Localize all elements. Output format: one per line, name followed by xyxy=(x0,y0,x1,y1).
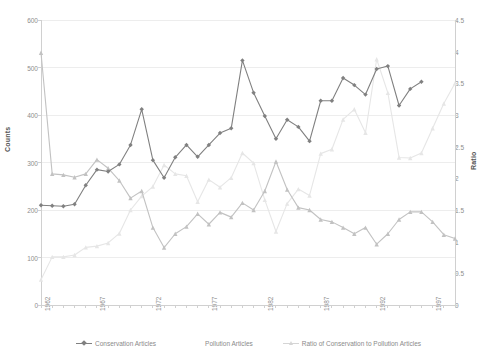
data-point-conservation-articles xyxy=(263,114,267,118)
data-point-conservation-articles xyxy=(39,203,43,207)
legend-marker-icon xyxy=(186,340,202,347)
data-point-pollution-articles xyxy=(263,189,267,193)
data-point-ratio-of-conservation-to-pollution-articles xyxy=(240,151,244,155)
data-point-pollution-articles xyxy=(195,212,199,216)
data-point-pollution-articles xyxy=(274,159,278,163)
data-point-conservation-articles xyxy=(330,99,334,103)
data-point-ratio-of-conservation-to-pollution-articles xyxy=(419,151,423,155)
data-point-ratio-of-conservation-to-pollution-articles xyxy=(229,176,233,180)
data-point-ratio-of-conservation-to-pollution-articles xyxy=(151,184,155,188)
data-point-pollution-articles xyxy=(240,201,244,205)
data-point-ratio-of-conservation-to-pollution-articles xyxy=(430,126,434,130)
data-point-ratio-of-conservation-to-pollution-articles xyxy=(352,107,356,111)
data-point-ratio-of-conservation-to-pollution-articles xyxy=(363,131,367,135)
legend-label: Conservation Articles xyxy=(95,340,156,347)
data-point-ratio-of-conservation-to-pollution-articles xyxy=(386,91,390,95)
data-point-conservation-articles xyxy=(319,99,323,103)
data-point-pollution-articles xyxy=(95,157,99,161)
data-point-ratio-of-conservation-to-pollution-articles xyxy=(117,231,121,235)
data-point-pollution-articles xyxy=(352,232,356,236)
data-point-pollution-articles xyxy=(285,187,289,191)
data-point-ratio-of-conservation-to-pollution-articles xyxy=(296,187,300,191)
data-point-ratio-of-conservation-to-pollution-articles xyxy=(319,151,323,155)
data-point-ratio-of-conservation-to-pollution-articles xyxy=(39,277,43,281)
legend-marker-icon xyxy=(76,340,92,347)
legend-item[interactable]: Conservation Articles xyxy=(76,340,156,347)
data-point-conservation-articles xyxy=(50,204,54,208)
data-point-pollution-articles xyxy=(218,210,222,214)
data-point-ratio-of-conservation-to-pollution-articles xyxy=(374,57,378,61)
data-point-ratio-of-conservation-to-pollution-articles xyxy=(195,200,199,204)
legend-label: Pollution Articles xyxy=(205,340,253,347)
chart-container: Counts Ratio 0100200300400500600 00.511.… xyxy=(0,0,497,358)
data-point-ratio-of-conservation-to-pollution-articles xyxy=(274,229,278,233)
legend-item[interactable]: Ratio of Conservation to Pollution Artic… xyxy=(283,340,421,347)
data-point-ratio-of-conservation-to-pollution-articles xyxy=(307,193,311,197)
data-point-pollution-articles xyxy=(363,225,367,229)
data-point-ratio-of-conservation-to-pollution-articles xyxy=(162,163,166,167)
legend-marker-icon xyxy=(283,340,299,347)
plot-area xyxy=(0,0,497,358)
chart-legend: Conservation ArticlesPollution ArticlesR… xyxy=(0,336,497,350)
data-point-ratio-of-conservation-to-pollution-articles xyxy=(330,147,334,151)
series-line-ratio-of-conservation-to-pollution-articles xyxy=(41,59,455,279)
data-point-conservation-articles xyxy=(61,204,65,208)
data-point-conservation-articles xyxy=(240,58,244,62)
data-point-pollution-articles xyxy=(140,189,144,193)
data-point-conservation-articles xyxy=(140,107,144,111)
legend-item[interactable]: Pollution Articles xyxy=(186,340,253,347)
legend-label: Ratio of Conservation to Pollution Artic… xyxy=(302,340,421,347)
data-point-pollution-articles xyxy=(39,51,43,55)
data-point-ratio-of-conservation-to-pollution-articles xyxy=(263,198,267,202)
data-point-conservation-articles xyxy=(128,143,132,147)
data-point-conservation-articles xyxy=(251,90,255,94)
data-point-conservation-articles xyxy=(229,126,233,130)
data-point-pollution-articles xyxy=(341,225,345,229)
data-point-ratio-of-conservation-to-pollution-articles xyxy=(207,177,211,181)
data-point-pollution-articles xyxy=(151,225,155,229)
data-point-ratio-of-conservation-to-pollution-articles xyxy=(442,101,446,105)
